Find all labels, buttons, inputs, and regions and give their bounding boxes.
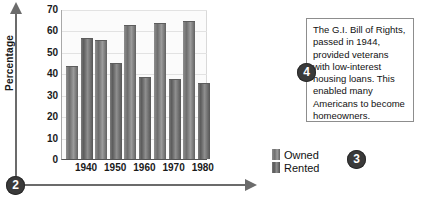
legend-label: Owned xyxy=(284,149,319,161)
y-tick-label: 0 xyxy=(28,154,58,165)
arrow-right-icon xyxy=(245,179,257,191)
horizontal-axis-line xyxy=(16,184,248,186)
note-box: The G.I. Bill of Rights, passed in 1944,… xyxy=(306,18,414,122)
y-tick-label: 60 xyxy=(28,25,58,36)
bar-rented xyxy=(139,77,151,159)
y-tick-label: 20 xyxy=(28,111,58,122)
bar-rented xyxy=(110,63,122,159)
callout-badge-legend[interactable]: 3 xyxy=(347,150,366,169)
bar-group xyxy=(66,10,93,159)
bar-rented xyxy=(198,83,210,159)
callout-badge-note[interactable]: 4 xyxy=(297,63,316,82)
callout-badge-origin[interactable]: 2 xyxy=(6,176,25,195)
legend-swatch-icon xyxy=(272,149,280,160)
y-tick-label: 50 xyxy=(28,47,58,58)
bar-rented xyxy=(81,38,93,159)
bar-group xyxy=(124,10,151,159)
bar-owned xyxy=(183,21,195,159)
arrow-up-icon xyxy=(10,2,22,14)
figure-root: 2 3 4 Percentage 706050403020100 1940195… xyxy=(0,0,424,207)
bar-owned xyxy=(124,25,136,159)
x-tick-label: 1980 xyxy=(180,162,226,173)
legend-swatch-icon xyxy=(272,162,280,173)
y-axis-label: Percentage xyxy=(4,18,18,108)
y-tick-label: 10 xyxy=(28,133,58,144)
bar-owned xyxy=(95,40,107,159)
chart-legend: OwnedRented xyxy=(272,148,319,174)
bar-owned xyxy=(66,66,78,159)
bar-series-container xyxy=(62,10,207,159)
bar-owned xyxy=(154,23,166,159)
bar-rented xyxy=(169,79,181,159)
y-tick-label: 30 xyxy=(28,90,58,101)
legend-item-rented[interactable]: Rented xyxy=(272,161,319,174)
y-tick-label: 40 xyxy=(28,68,58,79)
bar-group xyxy=(183,10,210,159)
bar-group xyxy=(95,10,122,159)
legend-item-owned[interactable]: Owned xyxy=(272,148,319,161)
plot-area xyxy=(61,10,207,160)
bar-chart: Percentage 706050403020100 1940195019601… xyxy=(26,8,208,178)
y-tick-label: 70 xyxy=(28,4,58,15)
bar-group xyxy=(154,10,181,159)
legend-label: Rented xyxy=(284,162,319,174)
